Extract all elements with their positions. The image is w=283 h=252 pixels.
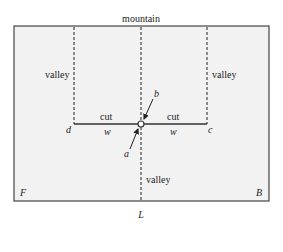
center-valley-label: valley (146, 174, 170, 185)
corner-b-label: B (256, 187, 262, 198)
left-valley-label: valley (45, 69, 69, 80)
point-b-label: b (154, 88, 159, 99)
left-width-label: w (104, 126, 111, 137)
right-width-label: w (170, 126, 177, 137)
point-c-label: c (208, 124, 213, 135)
mountain-label: mountain (122, 13, 160, 24)
corner-f-label: F (19, 187, 27, 198)
center-point (138, 121, 144, 127)
point-a-label: a (124, 148, 129, 159)
right-cut-label: cut (167, 111, 179, 122)
origami-diagram: mountain valley valley valley cut cut d … (0, 0, 283, 252)
bottom-l-label: L (137, 209, 144, 220)
right-valley-label: valley (212, 69, 236, 80)
left-cut-label: cut (100, 111, 112, 122)
